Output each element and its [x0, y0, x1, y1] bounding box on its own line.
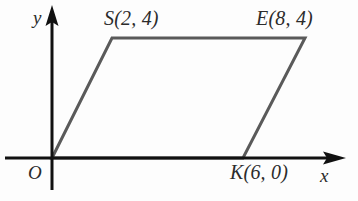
- coordinate-plane-figure: y x O S(2, 4) E(8, 4) K(6, 0): [0, 0, 358, 201]
- origin-label: O: [28, 163, 42, 182]
- x-axis-label: x: [320, 166, 329, 185]
- y-axis-label: y: [33, 8, 42, 27]
- figure-canvas: [0, 0, 358, 201]
- parallelogram-osek: [52, 38, 305, 158]
- vertex-label-e: E(8, 4): [256, 8, 313, 28]
- parallelogram-shape: [52, 38, 305, 158]
- x-axis: [5, 152, 346, 165]
- vertex-label-s: S(2, 4): [104, 8, 159, 28]
- vertex-label-k: K(6, 0): [230, 162, 288, 182]
- y-axis: [46, 5, 59, 190]
